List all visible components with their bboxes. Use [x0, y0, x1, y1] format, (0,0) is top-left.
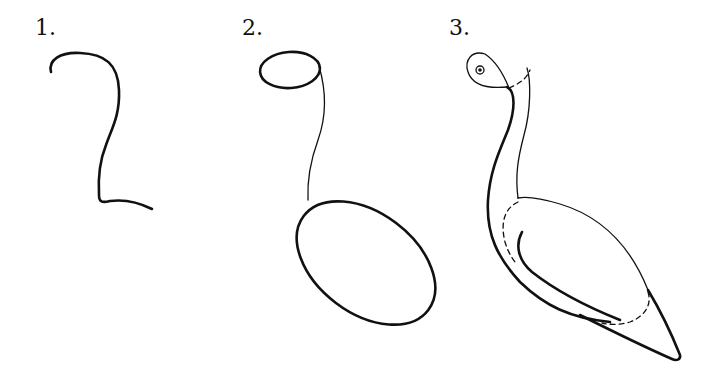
- chest-guide-dashed: [503, 202, 518, 262]
- neck-guide-curve: [51, 53, 152, 209]
- tail-guide-dashed: [602, 292, 649, 324]
- step-2-drawing: [259, 50, 459, 350]
- neck-back-outline: [517, 68, 530, 198]
- eye-pupil: [478, 68, 482, 72]
- wing-outline: [518, 232, 620, 320]
- body-ellipse: [274, 176, 459, 350]
- neck-front-outline: [488, 87, 610, 322]
- drawing-canvas: [0, 0, 712, 374]
- step-1-drawing: [51, 53, 152, 209]
- head-back-outline: [467, 53, 509, 88]
- head-guide-dashed: [509, 70, 530, 88]
- head-oval: [259, 50, 321, 90]
- tail-outline: [580, 290, 680, 360]
- neck-line: [308, 66, 325, 200]
- step-3-drawing: [467, 53, 680, 360]
